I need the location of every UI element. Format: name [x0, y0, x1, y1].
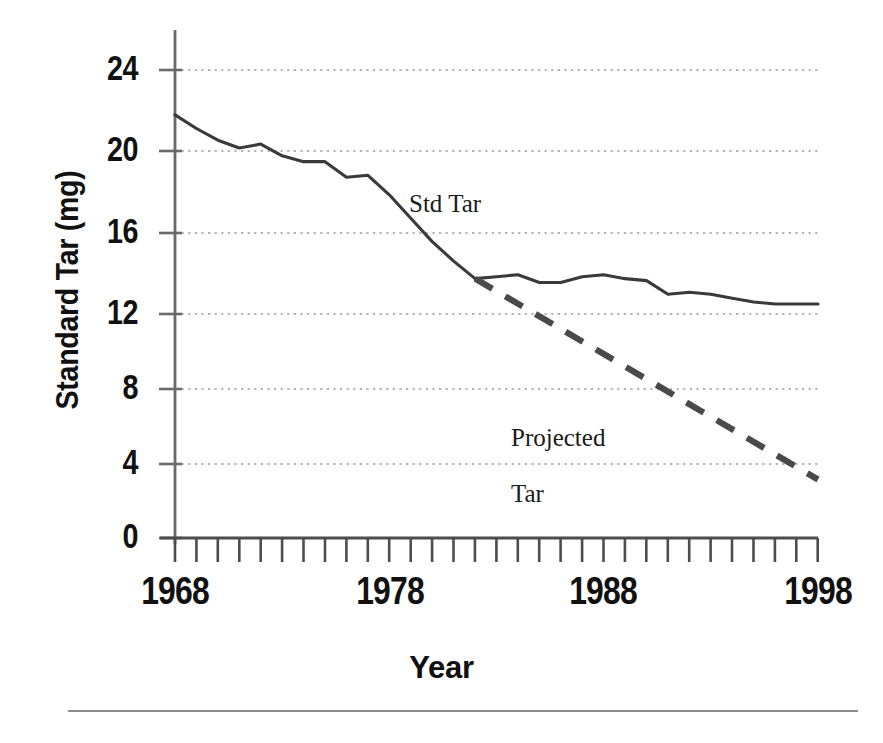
annotation-projected-tar-line2: Tar [511, 480, 605, 508]
series-line-std-tar [175, 115, 818, 304]
y-tick-label-24: 24 [72, 50, 138, 85]
x-tick-label-1998: 1998 [759, 572, 877, 610]
y-tick-label-0: 0 [72, 518, 138, 553]
gridlines [175, 70, 818, 464]
x-tick-label-1988: 1988 [544, 572, 662, 610]
y-axis-title: Standard Tar (mg) [50, 143, 86, 437]
x-axis-title: Year [0, 650, 883, 686]
bottom-horizontal-rule [68, 710, 858, 712]
annotation-std-tar: Std Tar [409, 190, 481, 218]
annotation-projected-tar: Projected Tar [511, 396, 605, 536]
annotation-projected-tar-line1: Projected [511, 424, 605, 452]
tar-trend-chart: 24 20 16 12 8 4 0 1968 1978 1988 1998 St… [0, 0, 883, 743]
x-minor-ticks [175, 538, 818, 562]
y-major-ticks [159, 70, 182, 538]
y-tick-label-4: 4 [72, 444, 138, 479]
x-tick-label-1968: 1968 [116, 572, 234, 610]
x-tick-label-1978: 1978 [331, 572, 449, 610]
